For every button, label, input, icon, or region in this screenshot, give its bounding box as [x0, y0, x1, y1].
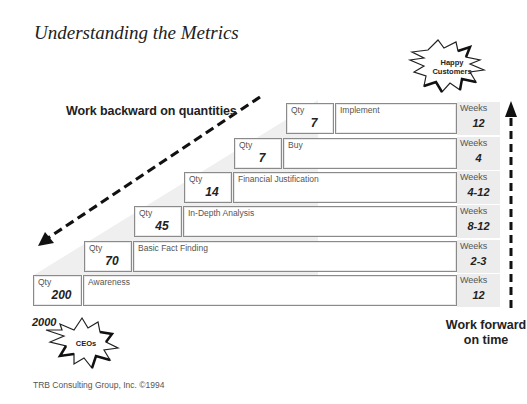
stage-name: Awareness: [88, 277, 130, 287]
qty-box: Qty 70: [84, 241, 132, 272]
qty-box: Qty 14: [184, 172, 232, 203]
stage-box: Basic Fact Finding: [133, 241, 457, 272]
stage-name: Implement: [340, 105, 380, 115]
qty-value: 45: [135, 219, 181, 233]
qty-box: Qty 200: [33, 275, 82, 306]
weeks-label: Weeks: [460, 275, 487, 285]
stage-name: Financial Justification: [238, 174, 319, 184]
page-title: Understanding the Metrics: [34, 22, 239, 44]
qty-label: Qty: [38, 277, 51, 287]
stage-box: In-Depth Analysis: [183, 206, 457, 237]
weeks-cell-financial-justification: Weeks 4-12: [457, 171, 500, 204]
qty-label: Qty: [139, 208, 152, 218]
qty-label: Qty: [291, 105, 304, 115]
start-count: 2000: [32, 316, 56, 328]
happy-customers-label: Happy Customers: [432, 58, 472, 76]
weeks-cell-in-depth-analysis: Weeks 8-12: [457, 205, 500, 238]
qty-value: 200: [34, 288, 81, 302]
work-forward-label: Work forward on time: [440, 318, 527, 348]
stage-box: Implement: [335, 103, 457, 134]
weeks-cell-awareness: Weeks 12: [457, 274, 500, 307]
weeks-label: Weeks: [460, 138, 487, 148]
qty-value: 7: [287, 116, 333, 130]
weeks-cell-implement: Weeks 12: [457, 102, 500, 135]
weeks-value: 12: [457, 117, 500, 129]
weeks-value: 12: [457, 289, 500, 301]
stage-name: Buy: [288, 140, 303, 150]
qty-value: 7: [235, 151, 281, 165]
weeks-value: 8-12: [457, 220, 500, 232]
stage-name: Basic Fact Finding: [138, 243, 208, 253]
stage-name: In-Depth Analysis: [188, 208, 254, 218]
weeks-label: Weeks: [460, 103, 487, 113]
forward-arrow-head-icon: [505, 101, 517, 117]
ceos-label: CEOs: [68, 339, 104, 348]
qty-value: 14: [185, 185, 231, 199]
qty-value: 70: [85, 254, 131, 268]
qty-box: Qty 45: [134, 206, 182, 237]
weeks-cell-basic-fact-finding: Weeks 2-3: [457, 240, 500, 273]
weeks-value: 2-3: [457, 255, 500, 267]
stage-box: Awareness: [83, 275, 457, 306]
qty-label: Qty: [239, 140, 252, 150]
stage-box: Buy: [283, 138, 457, 169]
weeks-label: Weeks: [460, 172, 487, 182]
qty-label: Qty: [89, 243, 102, 253]
qty-box: Qty 7: [286, 103, 334, 134]
stage-box: Financial Justification: [233, 172, 457, 203]
copyright-footer: TRB Consulting Group, Inc. ©1994: [33, 380, 164, 390]
backward-arrow-head-icon: [38, 232, 54, 246]
weeks-label: Weeks: [460, 241, 487, 251]
weeks-value: 4: [457, 152, 500, 164]
work-backward-label: Work backward on quantities: [66, 104, 237, 118]
weeks-cell-buy: Weeks 4: [457, 137, 500, 170]
qty-box: Qty 7: [234, 138, 282, 169]
weeks-label: Weeks: [460, 206, 487, 216]
weeks-value: 4-12: [457, 186, 500, 198]
qty-label: Qty: [189, 174, 202, 184]
